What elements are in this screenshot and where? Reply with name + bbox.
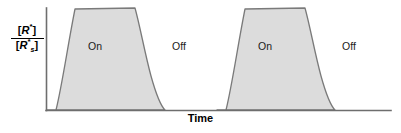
annotation-on-1: On xyxy=(88,40,102,52)
annotation-off-2: Off xyxy=(342,40,356,52)
y-axis-label: [R*] [R*s] xyxy=(8,25,46,51)
figure-container: [R*] [R*s] Time On Off On Off xyxy=(0,0,401,133)
y-axis-label-denominator: [R*s] xyxy=(8,39,46,52)
pulse-shape-1 xyxy=(47,8,165,110)
pulse-shape-2 xyxy=(217,8,335,110)
annotation-off-1: Off xyxy=(172,40,186,52)
y-axis-label-numerator: [R*] xyxy=(8,25,46,38)
x-axis-label: Time xyxy=(0,112,401,124)
annotation-on-2: On xyxy=(258,40,272,52)
